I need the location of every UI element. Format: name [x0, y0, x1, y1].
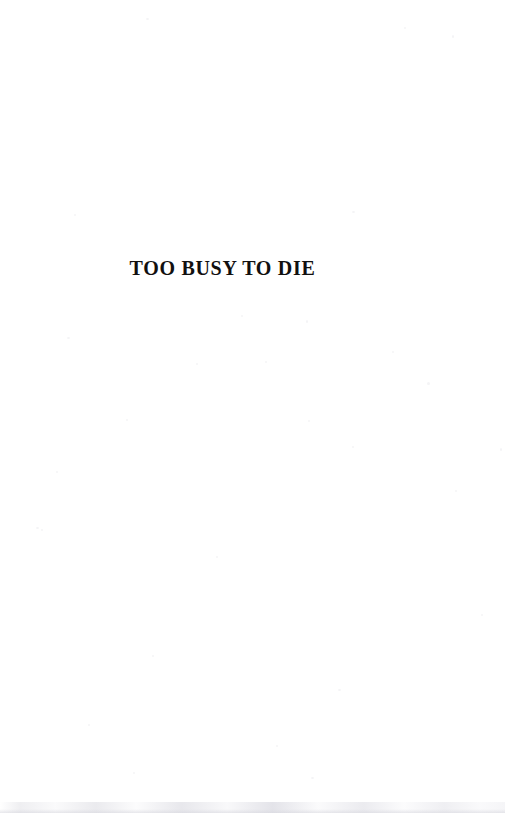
scan-speckle: [241, 315, 243, 317]
scan-speckle: [216, 556, 218, 558]
scan-speckle: [404, 27, 406, 29]
scan-speckle: [276, 745, 278, 747]
scan-speckle: [338, 689, 341, 691]
scan-speckle: [306, 320, 308, 323]
scan-speckle: [196, 363, 198, 365]
scan-speckle: [500, 448, 502, 451]
scan-speckle: [455, 490, 457, 492]
scan-speckle: [74, 214, 76, 216]
scan-speckle: [352, 211, 355, 213]
scan-speckle: [452, 35, 454, 38]
scan-speckle: [56, 471, 58, 473]
scan-speckle: [311, 777, 314, 779]
scan-speckle: [265, 361, 267, 363]
scan-speckle: [133, 772, 135, 774]
scan-speckle: [126, 419, 128, 421]
scan-speckle: [152, 655, 154, 657]
scanned-book-page: TOO BUSY TO DIE: [0, 0, 505, 813]
scan-speckle: [352, 446, 354, 448]
scan-speckle: [41, 529, 43, 531]
scan-speckle: [308, 420, 310, 422]
scan-speckle: [88, 724, 90, 726]
scan-speckle: [67, 337, 70, 339]
scan-speckle: [427, 382, 430, 385]
scan-speckle: [481, 614, 483, 616]
scan-bottom-edge-shadow: [0, 802, 505, 813]
scan-speckle: [36, 527, 39, 529]
half-title-block: TOO BUSY TO DIE: [0, 243, 505, 294]
page-title: TOO BUSY TO DIE: [130, 256, 316, 280]
scan-speckle: [146, 18, 149, 20]
scan-speckle: [392, 351, 394, 353]
